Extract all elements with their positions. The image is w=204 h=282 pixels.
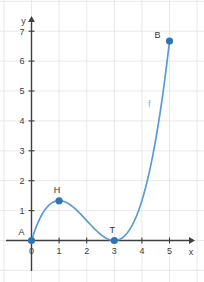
y-tick-label: 2 xyxy=(19,176,24,186)
x-axis-label: x xyxy=(189,247,194,257)
chart-canvas: 0123451234567 f AHTB xy xyxy=(0,0,204,282)
curve-label-f: f xyxy=(148,99,151,109)
y-tick-label: 3 xyxy=(19,146,24,156)
point-label-b: B xyxy=(154,30,160,40)
point-label-h: H xyxy=(54,185,61,195)
x-tick-label: 3 xyxy=(112,246,117,256)
y-tick-label: 5 xyxy=(19,86,24,96)
y-tick-label: 4 xyxy=(19,116,24,126)
y-tick-label: 7 xyxy=(19,27,24,37)
data-point-b xyxy=(166,37,173,44)
point-label-a: A xyxy=(18,227,24,237)
axis-ticks xyxy=(29,31,170,243)
point-label-t: T xyxy=(110,225,116,235)
data-point-h xyxy=(56,197,63,204)
x-tick-label: 0 xyxy=(29,246,34,256)
y-tick-label: 6 xyxy=(19,56,24,66)
function-label: f xyxy=(148,99,151,109)
x-tick-label: 4 xyxy=(139,246,144,256)
data-point-a xyxy=(28,237,35,244)
y-axis-label: y xyxy=(21,16,26,26)
x-axis-arrow xyxy=(189,237,195,244)
x-tick-label: 5 xyxy=(167,246,172,256)
x-tick-label: 1 xyxy=(57,246,62,256)
x-tick-label: 2 xyxy=(84,246,89,256)
y-tick-label: 1 xyxy=(19,206,24,216)
y-axis-arrow xyxy=(28,16,35,22)
labeled-points: AHTB xyxy=(18,30,173,244)
cubic-function-graph: 0123451234567 f AHTB xy xyxy=(0,0,204,282)
data-point-t xyxy=(111,237,118,244)
